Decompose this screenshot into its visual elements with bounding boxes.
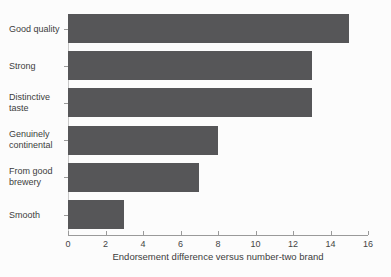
x-tick [106,231,107,235]
y-tick [64,103,68,104]
x-tick [181,231,182,235]
x-axis-line [68,235,368,236]
x-axis-title: Endorsement difference versus number-two… [112,251,323,262]
bar-from-good-brewery [68,163,199,192]
category-label-genuinely-continental: Genuinely continental [9,129,65,151]
category-label-distinctive-taste: Distinctive taste [9,92,65,114]
x-tick-label-6: 6 [178,239,183,249]
x-tick-label-16: 16 [363,239,373,249]
x-tick-label-12: 12 [288,239,298,249]
bar-smooth [68,200,124,229]
x-tick-label-0: 0 [65,239,70,249]
bar-strong [68,51,312,80]
category-label-good-quality: Good quality [9,23,65,34]
x-tick [218,231,219,235]
x-tick [368,231,369,235]
x-tick-label-14: 14 [325,239,335,249]
y-tick [64,140,68,141]
x-tick [68,231,69,235]
x-tick-label-4: 4 [140,239,145,249]
category-label-strong: Strong [9,60,65,71]
x-tick-label-10: 10 [250,239,260,249]
bar-distinctive-taste [68,88,312,117]
y-tick [64,177,68,178]
bar-genuinely-continental [68,126,218,155]
bar-chart: Good qualityStrongDistinctive tasteGenui… [0,0,391,277]
x-tick [143,231,144,235]
plot-area: Good qualityStrongDistinctive tasteGenui… [0,0,391,277]
y-tick [64,215,68,216]
category-label-from-good-brewery: From good brewery [9,166,65,188]
bar-good-quality [68,14,349,43]
y-tick [64,29,68,30]
x-tick [331,231,332,235]
x-tick-label-2: 2 [103,239,108,249]
x-tick-label-8: 8 [215,239,220,249]
x-tick [293,231,294,235]
category-label-smooth: Smooth [9,209,65,220]
x-tick [256,231,257,235]
y-tick [64,66,68,67]
